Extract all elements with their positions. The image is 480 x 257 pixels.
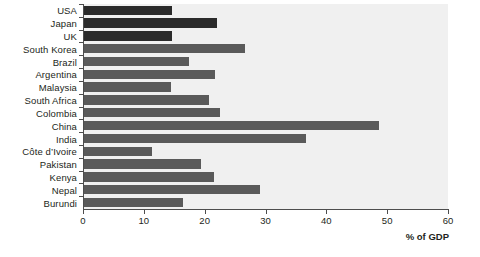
y-axis-tick — [79, 158, 83, 159]
bar-row: Kenya — [0, 171, 480, 184]
bar — [84, 108, 220, 117]
x-axis-tick — [205, 209, 206, 214]
x-axis-tick-label: 0 — [80, 215, 85, 226]
bar-track — [84, 107, 448, 120]
bar-rows: USAJapanUKSouth KoreaBrazilArgentinaMala… — [0, 4, 480, 209]
bar-row: Côte d’Ivoire — [0, 145, 480, 158]
bar — [84, 185, 260, 194]
bar-track — [84, 68, 448, 81]
category-label: China — [52, 120, 77, 131]
x-axis-title: % of GDP — [406, 231, 449, 242]
y-axis-tick — [79, 132, 83, 133]
bar — [84, 82, 171, 91]
x-axis-tick — [83, 209, 84, 214]
bar-track — [84, 132, 448, 145]
bar-track — [84, 81, 448, 94]
x-axis-tick-label: 30 — [260, 215, 271, 226]
bar-row: South Korea — [0, 42, 480, 55]
bar — [84, 134, 306, 143]
x-axis-tick — [387, 209, 388, 214]
bar-track — [84, 55, 448, 68]
y-axis-tick — [79, 55, 83, 56]
x-axis-tick-label: 60 — [443, 215, 454, 226]
category-label: Nepal — [52, 184, 77, 195]
bar-track — [84, 196, 448, 209]
bar — [84, 95, 209, 104]
x-axis-tick — [144, 209, 145, 214]
y-axis-tick — [79, 171, 83, 172]
bar — [84, 147, 152, 156]
x-axis-tick — [266, 209, 267, 214]
bar-row: Argentina — [0, 68, 480, 81]
category-label: Japan — [51, 18, 77, 29]
bar-row: USA — [0, 4, 480, 17]
x-axis-tick-label: 10 — [139, 215, 150, 226]
bar — [84, 18, 217, 27]
bar-row: China — [0, 119, 480, 132]
bar — [84, 31, 172, 40]
y-axis-tick — [79, 145, 83, 146]
bar — [84, 57, 189, 66]
bar-chart: USAJapanUKSouth KoreaBrazilArgentinaMala… — [0, 0, 480, 257]
bar-track — [84, 171, 448, 184]
bar — [84, 6, 172, 15]
bar — [84, 198, 183, 207]
y-axis-tick — [79, 81, 83, 82]
x-axis-tick-label: 40 — [321, 215, 332, 226]
bar-row: UK — [0, 30, 480, 43]
bar-track — [84, 158, 448, 171]
category-label: Kenya — [50, 171, 77, 182]
bar — [84, 121, 379, 130]
bar-track — [84, 119, 448, 132]
bar-row: Brazil — [0, 55, 480, 68]
bar-track — [84, 4, 448, 17]
category-label: UK — [64, 31, 77, 42]
bar-row: Japan — [0, 17, 480, 30]
category-label: Colombia — [36, 107, 77, 118]
bar-track — [84, 17, 448, 30]
bar-row: Nepal — [0, 183, 480, 196]
bar-track — [84, 42, 448, 55]
bar-row: South Africa — [0, 94, 480, 107]
x-axis-tick-label: 20 — [199, 215, 210, 226]
category-label: Malaysia — [39, 82, 77, 93]
category-label: USA — [57, 5, 77, 16]
category-label: Pakistan — [40, 159, 77, 170]
x-axis-tick — [326, 209, 327, 214]
bar-track — [84, 94, 448, 107]
category-label: Brazil — [53, 56, 77, 67]
category-label: India — [56, 133, 77, 144]
x-axis-tick-label: 50 — [382, 215, 393, 226]
y-axis-tick — [79, 107, 83, 108]
category-label: South Korea — [23, 43, 77, 54]
y-axis-tick — [79, 68, 83, 69]
y-axis-tick — [79, 42, 83, 43]
category-label: Burundi — [44, 197, 77, 208]
bar-row: Malaysia — [0, 81, 480, 94]
y-axis-tick — [79, 17, 83, 18]
y-axis-tick — [79, 30, 83, 31]
bar-row: Colombia — [0, 107, 480, 120]
category-label: Côte d’Ivoire — [22, 146, 77, 157]
y-axis-tick — [79, 119, 83, 120]
bar — [84, 70, 215, 79]
bar — [84, 44, 245, 53]
y-axis-tick — [79, 94, 83, 95]
y-axis-tick — [79, 183, 83, 184]
bar-track — [84, 183, 448, 196]
category-label: Argentina — [35, 69, 77, 80]
bar-row: Burundi — [0, 196, 480, 209]
bar-row: Pakistan — [0, 158, 480, 171]
y-axis-tick — [79, 196, 83, 197]
x-axis-ticks — [0, 209, 480, 217]
bar — [84, 172, 214, 181]
category-label: South Africa — [25, 95, 77, 106]
y-axis-tick — [79, 4, 83, 5]
bar — [84, 159, 201, 168]
bar-row: India — [0, 132, 480, 145]
bar-track — [84, 30, 448, 43]
x-axis-tick — [448, 209, 449, 214]
bar-track — [84, 145, 448, 158]
